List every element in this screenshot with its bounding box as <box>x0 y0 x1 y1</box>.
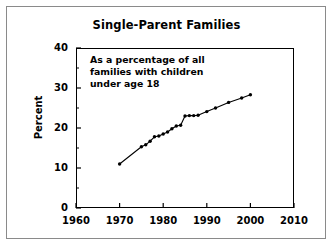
axis-ticks <box>76 48 294 208</box>
data-series <box>118 93 252 166</box>
chart-graphics <box>0 0 333 246</box>
chart-page: Single-Parent Families As a percentage o… <box>0 0 333 246</box>
